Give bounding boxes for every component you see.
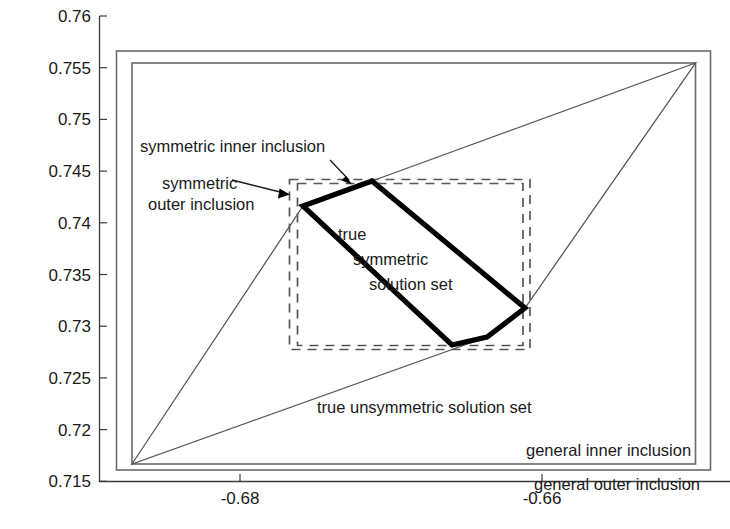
- label-symmetric-inner-inclusion: symmetric inner inclusion: [140, 137, 325, 155]
- symmetric-outer-inclusion-arrowhead: [278, 189, 290, 199]
- label-symmetric-outer-inclusion-line1: symmetric: [162, 174, 237, 192]
- label-general-inner-inclusion: general inner inclusion: [526, 441, 691, 459]
- label-symmetric-outer-inclusion-line2: outer inclusion: [148, 195, 254, 213]
- solution-set-plot: 0.76 0.755 0.75 0.745 0.74 0.735 0.73 0.…: [0, 0, 730, 529]
- symmetric-outer-inclusion-leader: [232, 180, 284, 193]
- y-tick-marks: [100, 16, 108, 481]
- y-tick-label-6: 0.73: [58, 317, 91, 336]
- y-tick-label-4: 0.74: [58, 214, 91, 233]
- x-tick-label-0: -0.68: [221, 489, 260, 508]
- y-tick-label-1: 0.755: [48, 59, 91, 78]
- label-true-symmetric-line3: solution set: [369, 275, 453, 293]
- y-tick-label-0: 0.76: [58, 7, 91, 26]
- y-tick-label-7: 0.725: [48, 369, 91, 388]
- label-general-outer-inclusion: general outer inclusion: [534, 475, 700, 493]
- y-tick-label-5: 0.735: [48, 266, 91, 285]
- label-true-symmetric-line1: true: [338, 225, 366, 243]
- y-tick-label-9: 0.715: [48, 472, 91, 491]
- y-tick-label-2: 0.75: [58, 110, 91, 129]
- figure-container: 0.76 0.755 0.75 0.745 0.74 0.735 0.73 0.…: [0, 0, 730, 529]
- label-true-symmetric-line2: symmetric: [353, 250, 428, 268]
- x-tick-marks: [240, 474, 542, 482]
- label-true-unsymmetric-solution-set: true unsymmetric solution set: [317, 398, 532, 416]
- y-tick-label-3: 0.745: [48, 162, 91, 181]
- y-tick-label-8: 0.72: [58, 421, 91, 440]
